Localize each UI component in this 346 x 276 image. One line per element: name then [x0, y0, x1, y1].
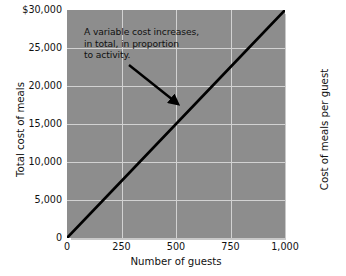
x-axis-title: Number of guests — [67, 256, 285, 267]
annotation-variable-cost-note: A variable cost increases,in total, in p… — [84, 26, 220, 61]
y-axis-tick-label: 25,000 — [28, 42, 62, 53]
x-axis-tick-label: 0 — [42, 241, 92, 252]
y-axis-tick-label: 10,000 — [28, 156, 62, 167]
x-axis-tick-label: 250 — [97, 241, 147, 252]
y-axis-title-left: Total cost of meals — [15, 40, 26, 220]
x-axis-tick-label: 1,000 — [260, 241, 310, 252]
x-axis-tick-label: 750 — [206, 241, 256, 252]
annotation-line: A variable cost increases, — [84, 26, 220, 38]
annotation-arrow-icon — [125, 60, 195, 115]
y-axis-tick-label: 15,000 — [28, 118, 62, 129]
y-axis-tick-label: 20,000 — [28, 80, 62, 91]
y-axis-title-right: Cost of meals per guest — [319, 40, 330, 220]
y-axis-tick-label: $30,000 — [22, 4, 62, 15]
chart-figure: 05,00010,00015,00020,00025,000$30,000 02… — [0, 0, 346, 276]
y-axis-tick-label: 5,000 — [35, 194, 62, 205]
annotation-line: in total, in proportion — [84, 38, 220, 50]
x-axis-tick-label: 500 — [151, 241, 201, 252]
